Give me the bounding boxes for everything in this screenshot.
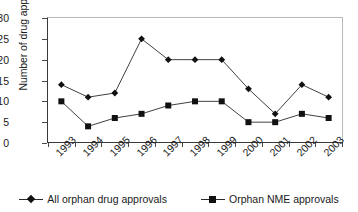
- legend-item-all-orphan-drug-approvals: All orphan drug approvals: [19, 193, 167, 205]
- diamond-marker-icon: [19, 194, 43, 204]
- x-tick-mark: [48, 143, 49, 147]
- y-tick-label: 10: [0, 96, 9, 106]
- legend-label: Orphan NME approvals: [229, 193, 339, 205]
- y-tick-mark: [42, 39, 47, 40]
- chart-legend: All orphan drug approvals Orphan NME app…: [0, 189, 358, 209]
- y-tick-mark: [42, 143, 47, 144]
- legend-item-orphan-nme-approvals: Orphan NME approvals: [201, 193, 339, 205]
- y-tick-mark: [42, 122, 47, 123]
- y-tick-label: 5: [0, 117, 9, 127]
- chart-container: Number of drug approvals 051015202530 19…: [0, 0, 358, 212]
- y-tick-mark: [42, 81, 47, 82]
- y-tick-mark: [42, 18, 47, 19]
- y-tick-label: 15: [0, 76, 9, 86]
- legend-label: All orphan drug approvals: [47, 193, 167, 205]
- y-tick-label: 25: [0, 34, 9, 44]
- y-tick-label: 30: [0, 13, 9, 23]
- y-axis-title: Number of drug approvals: [16, 0, 30, 101]
- y-tick-label: 20: [0, 55, 9, 65]
- square-marker-icon: [201, 194, 225, 204]
- y-tick-mark: [42, 60, 47, 61]
- plot-area: [47, 17, 343, 143]
- y-tick-mark: [42, 101, 47, 102]
- y-tick-label: 0: [0, 138, 9, 148]
